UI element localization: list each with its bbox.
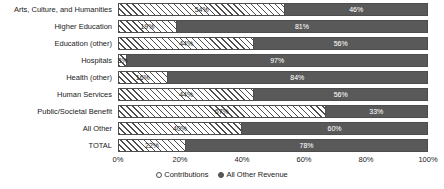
bar-segment-other-revenue: 78% bbox=[186, 139, 428, 152]
category-label: Hospitals bbox=[0, 54, 115, 67]
bar-value-label: 81% bbox=[295, 23, 309, 30]
bar-segment-contributions: 54% bbox=[118, 3, 285, 16]
table-row: 54% 46% bbox=[118, 3, 428, 16]
bar-segment-contributions: 16% bbox=[118, 71, 168, 84]
bar-value-label: 84% bbox=[290, 74, 304, 81]
chart-legend: Contributions All Other Revenue bbox=[0, 170, 444, 179]
x-axis: 0% 20% 40% 60% 80% 100% bbox=[118, 153, 428, 167]
x-axis-tick: 100% bbox=[418, 155, 437, 164]
x-axis-tick: 20% bbox=[172, 155, 187, 164]
bar-value-label: 16% bbox=[136, 74, 150, 81]
bar-segment-contributions: 19% bbox=[118, 20, 177, 33]
table-row: 16% 84% bbox=[118, 71, 428, 84]
bar-rows: 54% 46% 19% 81% 44% 56% bbox=[118, 3, 428, 152]
bar-segment-contributions: 3% bbox=[118, 54, 127, 67]
bar-segment-contributions: 44% bbox=[118, 37, 254, 50]
bar-segment-other-revenue: 84% bbox=[168, 71, 428, 84]
bar-value-label: 33% bbox=[369, 108, 383, 115]
bar-value-label: 44% bbox=[179, 40, 193, 47]
bar-value-label: 3% bbox=[118, 57, 128, 64]
category-label: Health (other) bbox=[0, 71, 115, 84]
category-label: Higher Education bbox=[0, 20, 115, 33]
x-axis-tick: 0% bbox=[113, 155, 124, 164]
bar-segment-contributions: 44% bbox=[118, 88, 254, 101]
bar-value-label: 44% bbox=[179, 91, 193, 98]
bar-value-label: 19% bbox=[140, 23, 154, 30]
bar-value-label: 46% bbox=[349, 6, 363, 13]
bar-value-label: 54% bbox=[195, 6, 209, 13]
bar-value-label: 22% bbox=[145, 142, 159, 149]
bar-segment-other-revenue: 46% bbox=[285, 3, 428, 16]
category-label: Education (other) bbox=[0, 37, 115, 50]
table-row: 67% 33% bbox=[118, 105, 428, 118]
bar-segment-other-revenue: 56% bbox=[254, 88, 428, 101]
bar-value-label: 67% bbox=[215, 108, 229, 115]
bar-value-label: 56% bbox=[334, 91, 348, 98]
plot-area: 54% 46% 19% 81% 44% 56% bbox=[118, 3, 428, 152]
category-label: All Other bbox=[0, 122, 115, 135]
legend-swatch-icon bbox=[156, 172, 162, 178]
bar-segment-other-revenue: 97% bbox=[127, 54, 428, 67]
legend-swatch-icon bbox=[218, 172, 224, 178]
x-axis-tick: 60% bbox=[296, 155, 311, 164]
bar-value-label: 97% bbox=[270, 57, 284, 64]
category-label: Public/Societal Benefit bbox=[0, 105, 115, 118]
table-row: 19% 81% bbox=[118, 20, 428, 33]
bar-segment-contributions: 22% bbox=[118, 139, 186, 152]
table-row: 3% 97% bbox=[118, 54, 428, 67]
bar-segment-contributions: 40% bbox=[118, 122, 242, 135]
bar-segment-other-revenue: 60% bbox=[242, 122, 428, 135]
bar-segment-other-revenue: 33% bbox=[326, 105, 428, 118]
stacked-bar-chart: Arts, Culture, and Humanities Higher Edu… bbox=[0, 0, 444, 189]
table-row: 44% 56% bbox=[118, 88, 428, 101]
table-row: 22% 78% bbox=[118, 139, 428, 152]
category-label: Arts, Culture, and Humanities bbox=[0, 3, 115, 16]
bar-value-label: 56% bbox=[334, 40, 348, 47]
table-row: 44% 56% bbox=[118, 37, 428, 50]
table-row: 40% 60% bbox=[118, 122, 428, 135]
bar-segment-other-revenue: 56% bbox=[254, 37, 428, 50]
legend-item-other-revenue: All Other Revenue bbox=[218, 170, 287, 179]
category-label: TOTAL bbox=[0, 139, 115, 152]
bar-value-label: 78% bbox=[300, 142, 314, 149]
legend-label: All Other Revenue bbox=[226, 170, 287, 179]
x-axis-tick: 40% bbox=[234, 155, 249, 164]
bar-segment-other-revenue: 81% bbox=[177, 20, 428, 33]
bar-value-label: 60% bbox=[327, 125, 341, 132]
bar-segment-contributions: 67% bbox=[118, 105, 326, 118]
legend-label: Contributions bbox=[164, 170, 208, 179]
legend-item-contributions: Contributions bbox=[156, 170, 208, 179]
category-label: Human Services bbox=[0, 88, 115, 101]
category-axis-labels: Arts, Culture, and Humanities Higher Edu… bbox=[0, 3, 115, 152]
bar-value-label: 40% bbox=[173, 125, 187, 132]
x-axis-tick: 80% bbox=[358, 155, 373, 164]
